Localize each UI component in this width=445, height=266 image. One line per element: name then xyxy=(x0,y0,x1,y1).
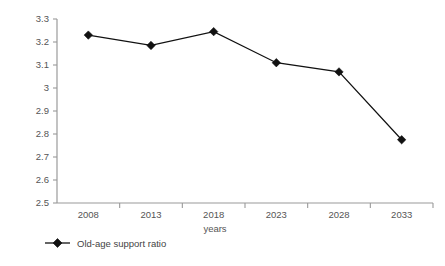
data-point-marker xyxy=(272,59,280,67)
legend-label: Old-age support ratio xyxy=(77,238,166,249)
data-point-marker xyxy=(84,31,92,39)
y-axis-tick-label: 2.8 xyxy=(36,128,49,139)
x-axis-title: years xyxy=(203,223,226,234)
line-chart: 3.33.23.132.92.82.72.62.5 20082013201820… xyxy=(0,0,445,266)
chart-canvas: 3.33.23.132.92.82.72.62.5 20082013201820… xyxy=(0,0,445,266)
x-axis-tick-label: 2013 xyxy=(140,209,161,220)
x-axis-ticks xyxy=(120,203,433,208)
legend: Old-age support ratio xyxy=(45,238,166,249)
y-axis-tick-label: 3.2 xyxy=(36,36,49,47)
y-axis-tick-label: 3.3 xyxy=(36,13,49,24)
series-markers-old-age-support-ratio xyxy=(84,27,406,144)
data-point-marker xyxy=(147,41,155,49)
x-axis: 200820132018202320282033 xyxy=(57,203,433,220)
series-line-old-age-support-ratio xyxy=(88,32,401,140)
plot-area xyxy=(84,27,406,144)
x-axis-tick-label: 2008 xyxy=(78,209,99,220)
y-axis-tick-label: 2.7 xyxy=(36,151,49,162)
y-axis: 3.33.23.132.92.82.72.62.5 xyxy=(36,13,57,208)
y-axis-tick-label: 3.1 xyxy=(36,59,49,70)
y-axis-tick-label: 2.9 xyxy=(36,105,49,116)
diamond-marker-icon xyxy=(53,239,62,248)
x-axis-tick-label: 2033 xyxy=(391,209,412,220)
y-axis-tick-label: 3 xyxy=(44,82,49,93)
data-point-marker xyxy=(209,27,217,35)
x-axis-tick-labels: 200820132018202320282033 xyxy=(78,209,412,220)
x-axis-tick-label: 2028 xyxy=(328,209,349,220)
x-axis-tick-label: 2018 xyxy=(203,209,224,220)
y-axis-tick-labels: 3.33.23.132.92.82.72.62.5 xyxy=(36,13,49,208)
y-axis-tick-label: 2.5 xyxy=(36,197,49,208)
x-axis-tick-label: 2023 xyxy=(266,209,287,220)
y-axis-tick-label: 2.6 xyxy=(36,174,49,185)
